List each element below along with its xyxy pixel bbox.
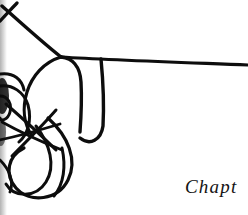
panel-right-shoulder [80, 59, 103, 142]
ink-stroke-group [0, 3, 248, 198]
upper-left-diagonal [2, 6, 61, 57]
chapter-caption: Chapt [185, 175, 237, 199]
big-rounded-panel [61, 57, 81, 132]
scanned-page: Chapt [0, 0, 248, 215]
long-horizontal-sweep [61, 57, 248, 65]
ink-blot-group [0, 78, 9, 146]
